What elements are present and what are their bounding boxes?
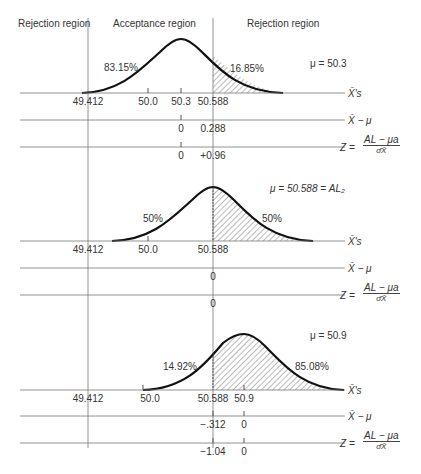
panel-3-z-tick-0: 0 bbox=[241, 446, 247, 457]
panel-2-z-formula: AL − μa σ̂X̄ bbox=[363, 282, 400, 303]
panel-2-diff-label: X̄ − μ bbox=[348, 263, 372, 274]
panel-3-tick-49412: 49.412 bbox=[73, 393, 104, 404]
panel-1-z-tick-096: +0.96 bbox=[200, 150, 225, 161]
panel-3-diff-tick-0: 0 bbox=[241, 419, 247, 430]
panel-3-z-tick-neg104: −1.04 bbox=[200, 446, 225, 457]
panel-2-tick-49412: 49.412 bbox=[73, 244, 104, 255]
panel-2-xbar-label: X̄'s bbox=[348, 236, 362, 247]
panel-1-right-pct: 16.85% bbox=[230, 63, 264, 74]
panel-3-right-pct: 85.08% bbox=[295, 361, 329, 372]
panel-3-tick-500: 50.0 bbox=[140, 393, 159, 404]
panel-1-tick-49412: 49.412 bbox=[73, 96, 104, 107]
panel-1-mu-label: μ = 50.3 bbox=[310, 58, 347, 69]
rejection-region-right-label: Rejection region bbox=[247, 18, 319, 29]
rejection-region-left-label: Rejection region bbox=[18, 18, 90, 29]
panel-2-left-pct: 50% bbox=[143, 213, 163, 224]
panel-3-xbar-label: X̄'s bbox=[348, 385, 362, 396]
panel-1-tick-503: 50.3 bbox=[171, 96, 190, 107]
panel-3-tick-50588: 50.588 bbox=[198, 393, 229, 404]
panel-2-z-prefix: Z = bbox=[340, 290, 355, 301]
panel-1-diff-tick-0288: 0.288 bbox=[200, 123, 225, 134]
panel-3-diff-tick-neg312: −.312 bbox=[200, 419, 225, 430]
panel-3-mu-label: μ = 50.9 bbox=[310, 330, 347, 341]
panel-2-tick-500: 50.0 bbox=[138, 244, 157, 255]
panel-2-right-pct: 50% bbox=[262, 213, 282, 224]
panel-1-z-tick-0: 0 bbox=[178, 150, 184, 161]
panel-3-left-pct: 14.92% bbox=[163, 361, 197, 372]
panel-1-diff-label: X̄ − μ bbox=[348, 115, 372, 126]
panel-1-z-prefix: Z = bbox=[340, 142, 355, 153]
panel-2-tick-50588: 50.588 bbox=[198, 244, 229, 255]
panel-2-z-tick-0: 0 bbox=[210, 298, 216, 309]
panel-2-mu-label: μ = 50.588 = AL₂ bbox=[270, 183, 345, 194]
panel-3-z-prefix: Z = bbox=[340, 438, 355, 449]
panel-2-diff-tick-0: 0 bbox=[210, 271, 216, 282]
panel-1-left-pct: 83.15% bbox=[104, 62, 138, 73]
panel-1-z-formula: AL − μa σ̂X̄ bbox=[363, 134, 400, 155]
panel-3-z-formula: AL − μa σ̂X̄ bbox=[363, 430, 400, 451]
acceptance-region-label: Acceptance region bbox=[113, 18, 196, 29]
panel-3-diff-label: X̄ − μ bbox=[348, 411, 372, 422]
panel-3-tick-509: 50.9 bbox=[234, 393, 253, 404]
panel-1-diff-tick-0: 0 bbox=[178, 123, 184, 134]
panel-1-tick-50588: 50.588 bbox=[198, 96, 229, 107]
panel-1-xbar-label: X̄'s bbox=[348, 88, 362, 99]
panel-1-tick-500: 50.0 bbox=[138, 96, 157, 107]
